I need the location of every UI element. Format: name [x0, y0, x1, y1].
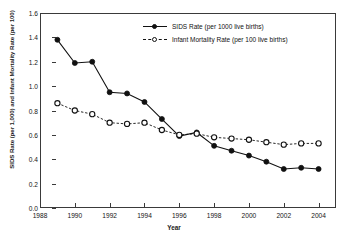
y-tick-mark — [52, 86, 56, 87]
y-tick-label: 1.0 — [16, 83, 38, 90]
legend-marker-sids-icon — [143, 22, 167, 32]
x-tick-label: 1998 — [197, 212, 231, 219]
x-tick-label: 1990 — [58, 212, 92, 219]
y-tick-mark — [52, 13, 56, 14]
x-tick-mark — [110, 203, 111, 208]
x-tick-mark — [319, 203, 320, 208]
y-tick-mark — [52, 111, 56, 112]
x-tick-label: 2000 — [232, 212, 266, 219]
y-tick-label: 1.4 — [16, 34, 38, 41]
y-tick-label: 0.8 — [16, 107, 38, 114]
y-tick-label: 0.2 — [16, 180, 38, 187]
x-tick-mark — [249, 203, 250, 208]
x-tick-mark — [179, 203, 180, 208]
x-tick-label: 1992 — [93, 212, 127, 219]
y-axis-ticks: 0.00.20.40.60.81.01.21.41.6 — [12, 0, 38, 239]
x-axis-title: Year — [0, 224, 348, 231]
y-tick-mark — [52, 135, 56, 136]
chart-legend: SIDS Rate (per 1000 live births) Infant … — [143, 20, 333, 46]
legend-label-imr: Infant Mortality Rate (per 100 live birt… — [167, 36, 288, 43]
x-tick-mark — [214, 203, 215, 208]
y-tick-mark — [52, 37, 56, 38]
x-tick-label: 1994 — [127, 212, 161, 219]
x-tick-label: 2002 — [267, 212, 301, 219]
x-tick-label: 2004 — [302, 212, 336, 219]
legend-marker-imr-icon — [143, 35, 167, 45]
y-tick-mark — [52, 184, 56, 185]
y-tick-mark — [52, 208, 56, 209]
y-tick-mark — [52, 62, 56, 63]
y-tick-label: 0.4 — [16, 156, 38, 163]
y-tick-label: 0.0 — [16, 205, 38, 212]
y-tick-label: 0.6 — [16, 131, 38, 138]
legend-item-imr: Infant Mortality Rate (per 100 live birt… — [143, 33, 333, 46]
chart-figure: 0.00.20.40.60.81.01.21.41.6 SIDS Rate (p… — [0, 0, 348, 239]
y-tick-label: 1.6 — [16, 10, 38, 17]
y-axis-title: SIDS Rate (per 1,000) and Infant Mortali… — [8, 0, 15, 185]
x-tick-mark — [284, 203, 285, 208]
x-tick-label: 1988 — [23, 212, 57, 219]
x-tick-mark — [144, 203, 145, 208]
y-tick-label: 1.2 — [16, 58, 38, 65]
y-tick-mark — [52, 159, 56, 160]
x-tick-mark — [75, 203, 76, 208]
legend-label-sids: SIDS Rate (per 1000 live births) — [167, 23, 264, 30]
x-tick-label: 1996 — [162, 212, 196, 219]
x-tick-mark — [40, 203, 41, 208]
legend-item-sids: SIDS Rate (per 1000 live births) — [143, 20, 333, 33]
